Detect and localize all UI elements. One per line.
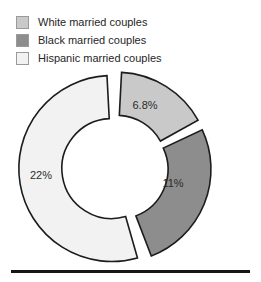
bottom-divider-rule [11, 270, 250, 273]
legend-item-white-married-couples: White married couples [16, 14, 216, 31]
slice-value-label-black-married-couples: 11% [162, 177, 183, 189]
legend-swatch-hispanic-married-couples [16, 52, 29, 65]
legend-label-hispanic-married-couples: Hispanic married couples [38, 52, 162, 65]
legend-item-hispanic-married-couples: Hispanic married couples [16, 50, 216, 67]
chart-legend: White married couples Black married coup… [16, 14, 216, 68]
slice-value-label-white-married-couples: 6.8% [132, 99, 157, 111]
legend-item-black-married-couples: Black married couples [16, 32, 216, 49]
donut-chart-svg: 6.8%11%22% [0, 68, 261, 268]
legend-swatch-black-married-couples [16, 34, 29, 47]
donut-slice-white-married-couples[interactable] [119, 72, 198, 141]
slice-value-label-hispanic-married-couples: 22% [30, 169, 52, 181]
legend-label-black-married-couples: Black married couples [38, 34, 146, 47]
donut-slice-black-married-couples[interactable] [136, 130, 211, 256]
legend-label-white-married-couples: White married couples [38, 16, 147, 29]
donut-slices [19, 72, 211, 261]
legend-swatch-white-married-couples [16, 16, 29, 29]
donut-chart: 6.8%11%22% [0, 68, 261, 268]
